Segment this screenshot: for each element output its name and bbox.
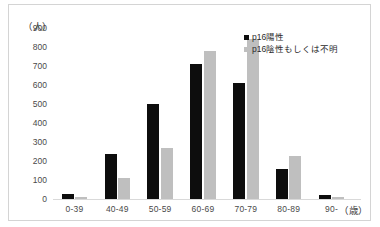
legend-swatch-icon: [244, 35, 249, 40]
bar-group: [182, 28, 225, 199]
bar: [204, 51, 216, 199]
legend-item: p16陽性: [244, 32, 338, 43]
y-axis-tick-500: 500: [9, 99, 47, 109]
x-axis-tick-70-79: 70-79: [224, 204, 267, 214]
legend-item-label: p16陰性もしくは不明: [252, 44, 338, 55]
chart-legend: p16陽性p16陰性もしくは不明: [244, 32, 338, 56]
y-axis-tick-200: 200: [9, 156, 47, 166]
x-axis-tick-40-49: 40-49: [96, 204, 139, 214]
y-axis-tick-600: 600: [9, 80, 47, 90]
chart-frame: （人） 9008007006005004003002001000 0-3940-…: [8, 4, 371, 221]
bar: [276, 169, 288, 199]
bar: [147, 104, 159, 199]
legend-item: p16陰性もしくは不明: [244, 44, 338, 55]
y-axis-tick-900: 900: [9, 23, 47, 33]
y-axis-tick-700: 700: [9, 61, 47, 71]
x-axis-line: [53, 199, 361, 200]
y-axis-tick-300: 300: [9, 137, 47, 147]
bar-group: [96, 28, 139, 199]
x-axis-tick-80-89: 80-89: [267, 204, 310, 214]
bar: [161, 148, 173, 199]
x-axis-tick-0-39: 0-39: [53, 204, 96, 214]
bar: [289, 156, 301, 199]
bar: [190, 64, 202, 199]
y-axis-tick-400: 400: [9, 118, 47, 128]
bar-chart: （人） 9008007006005004003002001000 0-3940-…: [9, 5, 370, 220]
y-axis-tick-0: 0: [9, 194, 47, 204]
y-axis-tick-100: 100: [9, 175, 47, 185]
bar: [247, 39, 259, 199]
bar: [118, 178, 130, 199]
legend-swatch-icon: [244, 47, 249, 52]
y-axis-tick-800: 800: [9, 42, 47, 52]
x-axis-tick-60-69: 60-69: [182, 204, 225, 214]
bar-group: [53, 28, 96, 199]
bar: [233, 83, 245, 199]
legend-item-label: p16陽性: [252, 32, 284, 43]
x-axis-tick-50-59: 50-59: [139, 204, 182, 214]
bar-group: [139, 28, 182, 199]
bar: [105, 154, 117, 199]
x-axis-unit-label: （歳）: [339, 203, 368, 217]
